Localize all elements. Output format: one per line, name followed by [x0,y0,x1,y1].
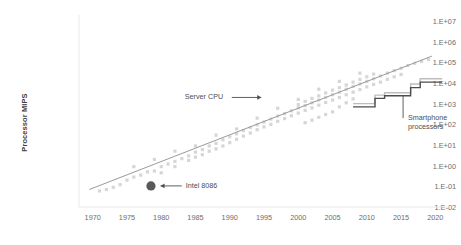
scatter-point [146,170,149,173]
highlight-point-intel-8086 [146,181,155,190]
scatter-point [276,107,279,110]
scatter-point [317,88,320,91]
scatter-point [379,81,382,84]
scatter-point [105,188,108,191]
scatter-point [358,88,361,91]
scatter-point [304,100,307,103]
scatter-point [256,128,259,131]
scatter-point [393,75,396,78]
scatter-point [310,106,313,109]
scatter-point [338,96,341,99]
scatter-point [351,97,354,100]
scatter-point [160,171,163,174]
scatter-point [310,97,313,100]
scatter-point [98,189,101,192]
annotation-smartphone-processors: Smartphone processors [408,113,461,131]
scatter-point [112,186,115,189]
scatter-point [283,117,286,120]
series-trend-line [89,56,432,189]
scatter-point [201,148,204,151]
scatter-point [331,110,334,113]
scatter-point [208,144,211,147]
scatter-point [125,179,128,182]
scatter-point [269,123,272,126]
series-intel-8086 [146,181,155,190]
scatter-point [310,119,313,122]
scatter-point [386,78,389,81]
scatter-point [372,72,375,75]
scatter-point [242,134,245,137]
scatter-point [153,169,156,172]
scatter-point [345,93,348,96]
scatter-point [338,80,341,83]
scatter-point [173,165,176,168]
scatter-point [351,81,354,84]
scatter-point [331,98,334,101]
scatter-point [214,134,217,137]
scatter-point [297,111,300,114]
scatter-point [304,109,307,112]
scatter-point [276,120,279,123]
scatter-point [338,105,341,108]
scatter-point [399,73,402,76]
scatter-point [201,153,204,156]
scatter-point [132,165,135,168]
scatter-point [139,173,142,176]
scatter-point [324,91,327,94]
scatter-point [180,157,183,160]
scatter-point [331,89,334,92]
scatter-point [365,75,368,78]
scatter-point [166,162,169,165]
series-processor-mips-scatter [98,58,430,193]
scatter-point [187,159,190,162]
scatter-point [173,160,176,163]
scatter-point [317,104,320,107]
scatter-point [372,83,375,86]
scatter-point [119,183,122,186]
scatter-point [345,83,348,86]
scatter-point [345,101,348,104]
scatter-point [358,72,361,75]
scatter-point [173,150,176,153]
scatter-point [262,125,265,128]
scatter-point [221,144,224,147]
intel-8086-arrow-head [161,183,165,188]
scatter-point [338,86,341,89]
scatter-point [256,117,259,120]
scatter-point [297,98,300,101]
scatter-point [194,144,197,147]
scatter-point [304,121,307,124]
scatter-point [160,165,163,168]
scatter-point [324,113,327,116]
scatter-point [235,127,238,130]
scatter-point [297,103,300,106]
scatter-point [194,151,197,154]
scatter-point [208,150,211,153]
scatter-point [235,138,238,141]
scatter-point [365,85,368,88]
scatter-point [187,154,190,157]
scatter-point [194,155,197,158]
scatter-point [358,78,361,81]
annotation-server-cpu: Server CPU [185,92,223,101]
scatter-point [132,175,135,178]
trend-line [89,56,432,189]
scatter-point [221,138,224,141]
scatter-point [214,142,217,145]
scatter-point [290,114,293,117]
scatter-point [324,101,327,104]
scatter-point [214,147,217,150]
scatter-point [317,116,320,119]
scatter-point [317,94,320,97]
scatter-point [228,141,231,144]
annotation-intel-8086: Intel 8086 [186,181,218,190]
server-cpu-arrow-head [257,95,261,100]
scatter-point [351,91,354,94]
scatter-point [153,158,156,161]
scatter-point [249,131,252,134]
